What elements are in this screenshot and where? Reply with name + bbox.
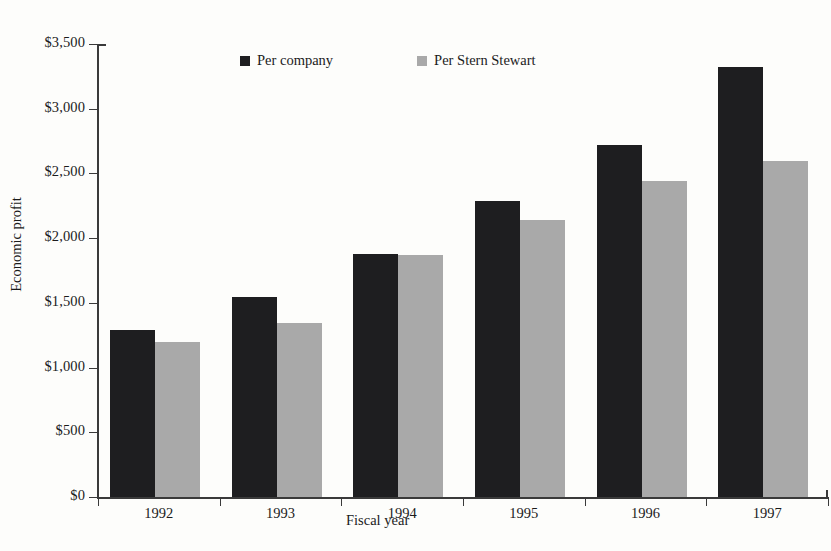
y-tick-mark: [89, 238, 98, 239]
bar-1993-series-1: [277, 323, 322, 497]
bar-1996-series-1: [642, 181, 687, 497]
bar-1995-series-0: [475, 201, 520, 497]
y-tick-mark: [89, 303, 98, 304]
y-tick-mark: [89, 109, 98, 110]
bar-1995-series-1: [520, 220, 565, 497]
y-tick-label: $2,000: [45, 228, 85, 245]
y-axis-title: Economic profit: [8, 165, 25, 325]
y-tick-mark: [89, 173, 98, 174]
x-tick-label: 1993: [236, 505, 326, 522]
bar-1992-series-0: [110, 330, 155, 497]
x-tick-label: 1996: [601, 505, 691, 522]
x-tick-mark: [341, 497, 342, 506]
economic-profit-bar-chart: Economic profit Fiscal year Per companyP…: [0, 0, 831, 551]
bar-1994-series-0: [353, 254, 398, 497]
bar-1997-series-1: [763, 161, 808, 498]
y-tick-mark: [89, 44, 98, 45]
y-tick-mark: [89, 368, 98, 369]
y-tick-label: $3,000: [45, 99, 85, 116]
x-tick-mark: [706, 497, 707, 506]
y-tick-label: $0: [70, 487, 85, 504]
y-tick-label: $1,500: [45, 293, 85, 310]
x-tick-label: 1997: [722, 505, 812, 522]
x-tick-mark: [463, 497, 464, 506]
y-tick-label: $500: [56, 422, 85, 439]
bar-1992-series-1: [155, 342, 200, 497]
x-tick-mark: [585, 497, 586, 506]
bar-1996-series-0: [597, 145, 642, 497]
plot-area: [98, 44, 828, 497]
y-tick-mark: [89, 432, 98, 433]
x-tick-label: 1995: [479, 505, 569, 522]
y-tick-label: $2,500: [45, 163, 85, 180]
x-tick-label: 1994: [357, 505, 447, 522]
y-tick-label: $1,000: [45, 358, 85, 375]
bar-1997-series-0: [718, 67, 763, 497]
bar-1994-series-1: [398, 255, 443, 497]
x-tick-label: 1992: [114, 505, 204, 522]
x-tick-mark: [220, 497, 221, 506]
x-tick-mark: [98, 497, 99, 506]
y-tick-mark: [89, 497, 98, 498]
x-tick-mark: [828, 497, 829, 506]
y-tick-label: $3,500: [45, 34, 85, 51]
bar-1993-series-0: [232, 297, 277, 497]
